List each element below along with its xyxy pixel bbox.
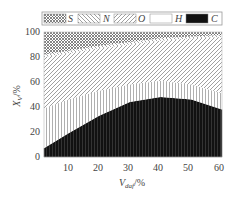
y-tick-label: 80 — [30, 51, 40, 62]
stacked-area-chart: S N O H C 100 80 60 40 20 0 XV/% 10 20 3… — [0, 0, 235, 197]
legend-label-n: N — [102, 13, 111, 24]
x-tick-label: 40 — [153, 162, 163, 173]
x-tick-label: 50 — [183, 162, 193, 173]
x-tick-label: 30 — [123, 162, 133, 173]
y-axis: 100 80 60 40 20 0 XV/% — [11, 26, 40, 162]
x-axis: 10 20 30 40 50 60 Vdaf/% — [63, 162, 224, 190]
legend-swatch-c — [186, 14, 208, 23]
legend-label-c: C — [211, 13, 218, 24]
y-axis-label: XV/% — [11, 85, 24, 108]
legend-swatch-o — [114, 14, 136, 23]
y-tick-label: 20 — [30, 126, 40, 137]
x-tick-label: 60 — [214, 162, 224, 173]
y-tick-label: 60 — [30, 76, 40, 87]
legend-swatch-s — [44, 14, 66, 23]
legend: S N O H C — [42, 12, 222, 25]
x-axis-label: Vdaf/% — [119, 177, 145, 190]
y-tick-label: 0 — [35, 151, 40, 162]
x-tick-label: 10 — [63, 162, 73, 173]
legend-label-o: O — [138, 13, 145, 24]
legend-label-s: S — [68, 13, 73, 24]
legend-swatch-h — [150, 14, 172, 23]
legend-swatch-n — [78, 14, 100, 23]
x-tick-label: 20 — [93, 162, 103, 173]
y-tick-label: 100 — [25, 26, 40, 37]
y-tick-label: 40 — [30, 101, 40, 112]
legend-label-h: H — [174, 13, 183, 24]
plot-areas — [44, 32, 222, 157]
